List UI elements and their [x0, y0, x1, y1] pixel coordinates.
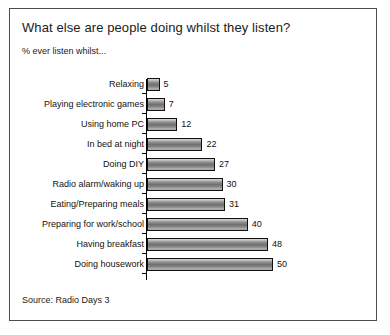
chart-source-note: Source: Radio Days 3	[22, 295, 110, 305]
bar-value-label: 7	[169, 99, 174, 109]
bar-row: Having breakfast48	[10, 235, 376, 255]
bar-category-label: Using home PC	[9, 119, 144, 129]
bar	[147, 258, 273, 271]
bar-value-label: 5	[164, 79, 169, 89]
bar-row: Playing electronic games7	[10, 95, 376, 115]
bar-value-label: 27	[219, 159, 229, 169]
axis-tick	[142, 113, 146, 114]
axis-tick	[142, 133, 146, 134]
bar	[147, 118, 177, 131]
axis-tick	[142, 233, 146, 234]
axis-tick	[142, 193, 146, 194]
chart-subtitle: % ever listen whilst...	[22, 46, 106, 56]
bar-row: In bed at night22	[10, 135, 376, 155]
bar	[147, 98, 165, 111]
bar-value-label: 48	[272, 239, 282, 249]
bar-category-label: Playing electronic games	[9, 99, 144, 109]
bar-category-label: Doing housework	[9, 259, 144, 269]
bar-value-label: 31	[229, 199, 239, 209]
bar-value-label: 22	[206, 139, 216, 149]
axis-tick	[142, 253, 146, 254]
bar	[147, 158, 215, 171]
bar-row: Eating/Preparing meals31	[10, 195, 376, 215]
bar-row: Using home PC12	[10, 115, 376, 135]
bar	[147, 78, 160, 91]
axis-tick	[142, 213, 146, 214]
bar	[147, 138, 202, 151]
bar-row: Radio alarm/waking up30	[10, 175, 376, 195]
bar-row: Doing housework50	[10, 255, 376, 275]
bar-value-label: 12	[181, 119, 191, 129]
chart-frame: What else are people doing whilst they l…	[9, 8, 377, 321]
bar-category-label: Eating/Preparing meals	[9, 199, 144, 209]
bar-row: Preparing for work/school40	[10, 215, 376, 235]
bar-category-label: Having breakfast	[9, 239, 144, 249]
chart-title: What else are people doing whilst they l…	[22, 20, 290, 35]
bar-category-label: Relaxing	[9, 79, 144, 89]
bar-category-label: Preparing for work/school	[9, 219, 144, 229]
bar	[147, 218, 248, 231]
bar-row: Relaxing5	[10, 75, 376, 95]
bar-row: Doing DIY27	[10, 155, 376, 175]
bar-category-label: Radio alarm/waking up	[9, 179, 144, 189]
axis-tick	[142, 173, 146, 174]
bar	[147, 238, 268, 251]
axis-tick	[142, 93, 146, 94]
bar-category-label: In bed at night	[9, 139, 144, 149]
bar-value-label: 40	[252, 219, 262, 229]
axis-tick	[142, 153, 146, 154]
axis-tick	[142, 273, 146, 274]
bar-category-label: Doing DIY	[9, 159, 144, 169]
bar	[147, 198, 225, 211]
bar-value-label: 50	[277, 259, 287, 269]
bar-chart-plot: Relaxing5Playing electronic games7Using …	[10, 75, 376, 285]
bar-value-label: 30	[227, 179, 237, 189]
bar	[147, 178, 223, 191]
